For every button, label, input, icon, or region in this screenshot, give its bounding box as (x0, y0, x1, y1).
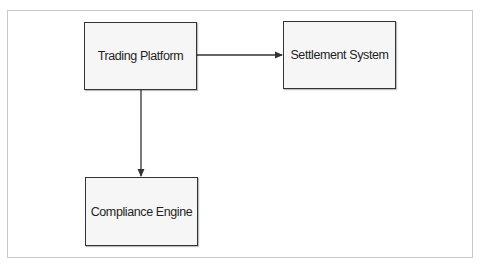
node-compliance-engine: Compliance Engine (85, 177, 198, 246)
node-trading-platform: Trading Platform (84, 22, 197, 90)
node-label: Settlement System (290, 48, 388, 62)
node-settlement-system: Settlement System (283, 21, 396, 89)
diagram-frame (7, 10, 473, 258)
cropped-caption-fragment (0, 0, 479, 4)
node-label: Compliance Engine (91, 205, 193, 219)
node-label: Trading Platform (98, 49, 184, 63)
